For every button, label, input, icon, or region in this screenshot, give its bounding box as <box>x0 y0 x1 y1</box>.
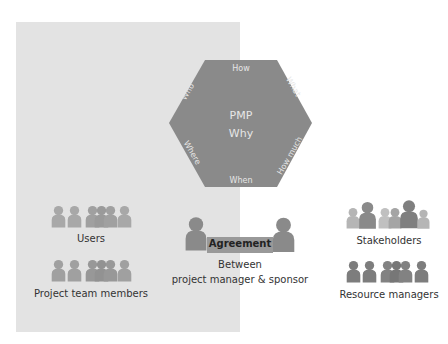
edge-label-how: How <box>232 64 250 73</box>
sponsor-icon <box>273 218 295 252</box>
project-team-label: Project team members <box>34 287 148 301</box>
users-people-icon <box>52 206 132 228</box>
edge-label-when: When <box>230 176 253 185</box>
agreement-label: Agreement <box>209 238 272 249</box>
project-manager-icon <box>186 217 207 250</box>
stakeholders-label: Stakeholders <box>356 234 421 248</box>
hexagon-subtitle: Why <box>229 127 254 140</box>
users-label: Users <box>77 232 105 246</box>
pmp-hexagon: How What How much When Where Who PMP Why <box>169 60 312 187</box>
resource-managers-people-icon <box>347 261 429 283</box>
resource-managers-label: Resource managers <box>339 288 438 302</box>
stakeholders-people-icon <box>347 200 430 229</box>
project-team-people-icon <box>52 260 132 282</box>
agreement-caption-line2: project manager & sponsor <box>172 273 308 287</box>
hexagon-title: PMP <box>230 109 253 122</box>
agreement-caption-line1: Between <box>218 258 262 272</box>
